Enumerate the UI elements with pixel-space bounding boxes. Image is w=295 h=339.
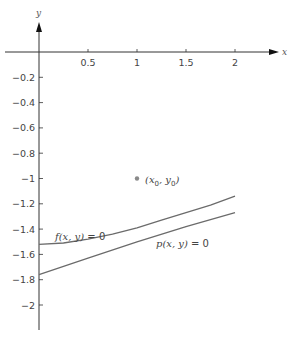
y-tick-label: −1 — [21, 173, 35, 184]
chart-canvas: 0.511.52−0.2−0.4−0.6−0.8−1−1.2−1.4−1.6−1… — [0, 0, 295, 339]
x-axis-label: x — [282, 47, 287, 57]
y-tick-label: −1.8 — [12, 274, 35, 285]
points — [135, 176, 139, 180]
y-axis-label: y — [35, 8, 42, 18]
y-axis-arrow-icon — [36, 22, 42, 32]
y-tick-label: −1.6 — [12, 249, 35, 260]
x-tick-label: 1.5 — [178, 57, 193, 68]
y-tick-label: −0.2 — [12, 72, 35, 83]
x-tick-label: 0.5 — [80, 57, 95, 68]
y-tick-label: −1.4 — [12, 224, 35, 235]
point-label: (x0, y0) — [145, 174, 180, 188]
p-curve-label: p(x, y) = 0 — [156, 238, 209, 249]
y-tick-label: −0.4 — [12, 97, 35, 108]
y-tick-label: −2 — [21, 300, 35, 311]
x-tick-label: 1 — [134, 57, 140, 68]
ticks: 0.511.52−0.2−0.4−0.6−0.8−1−1.2−1.4−1.6−1… — [12, 49, 238, 311]
axes — [5, 22, 279, 330]
point-x0-y0-marker — [135, 176, 139, 180]
f-curve-label: f(x, y) = 0 — [54, 231, 105, 242]
x-axis-arrow-icon — [269, 49, 279, 55]
y-tick-label: −0.6 — [12, 122, 35, 133]
x-tick-label: 2 — [232, 57, 238, 68]
y-tick-label: −0.8 — [12, 148, 35, 159]
y-tick-label: −1.2 — [12, 198, 35, 209]
